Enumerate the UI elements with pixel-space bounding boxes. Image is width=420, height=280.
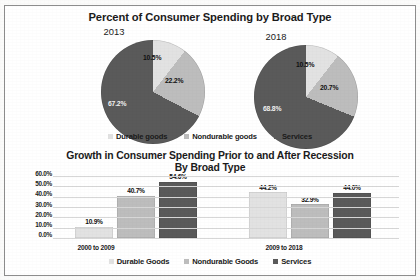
bar-value-services-g1: 44.0% [330, 184, 374, 191]
pie-legend-item-nondurable: Nondurable goods [184, 132, 257, 141]
gridline-60 [53, 176, 399, 177]
pie-legend-label-services: Services [282, 132, 312, 141]
pie-chart-panel: Percent of Consumer Spending by Broad Ty… [6, 7, 414, 149]
bar-legend-label-services: Services [281, 257, 311, 266]
legend-swatch-services-bar-icon [273, 259, 278, 264]
bar-legend-item-services: Services [273, 257, 311, 266]
pie-legend-label-durable: Durable goods [116, 132, 167, 141]
y-axis-tick-labels: 60.0%50.0%40.0%30.0%20.0%10.0%0.0% [14, 170, 52, 244]
y-tick-60-0: 60.0% [14, 170, 52, 177]
bar-plot-area: 10.9% 40.7% 54.6% 44.2% 32.9% [53, 176, 399, 238]
bar-legend-label-durable: Durable Goods [117, 257, 169, 266]
bar-chart-panel: Growth in Consumer Spending Prior to and… [6, 150, 414, 276]
scanned-page: Percent of Consumer Spending by Broad Ty… [0, 0, 420, 280]
bar-legend-item-nondurable: Nondurable Goods [184, 257, 258, 266]
pie-label-services-2013: 67.2% [108, 100, 126, 107]
y-tick-30-0: 30.0% [14, 201, 52, 208]
gridline-40 [53, 197, 399, 198]
legend-swatch-nondurable-goods-icon [184, 259, 189, 264]
pie-label-services-2018: 68.8% [263, 105, 281, 112]
pie-label-nondurable-2013: 22.2% [165, 77, 183, 84]
gridline-0 [53, 238, 399, 239]
pie-legend-label-nondurable: Nondurable goods [192, 132, 257, 141]
bar-value-nondurable-g0: 40.7% [114, 187, 158, 194]
bar-nondurable-g1 [291, 204, 329, 238]
pie-subtitle-2013: 2013 [84, 26, 144, 37]
pie-label-durable-2018: 10.5% [296, 61, 314, 68]
gridline-50 [53, 186, 399, 187]
x-axis-label-2009-2018: 2009 to 2018 [224, 244, 344, 251]
y-tick-0-0: 0.0% [14, 231, 52, 238]
pie-chart-2013: 10.5% 22.2% 67.2% [101, 40, 205, 144]
bar-title-line-2: By Broad Type [175, 162, 246, 173]
pie-panel-title: Percent of Consumer Spending by Broad Ty… [6, 11, 414, 23]
pie-label-durable-2013: 10.5% [143, 54, 161, 61]
bar-services-g1 [333, 193, 371, 239]
gridline-30 [53, 207, 399, 208]
bar-services-g0 [159, 182, 197, 238]
y-tick-20-0: 20.0% [14, 211, 52, 218]
y-tick-10-0: 10.0% [14, 221, 52, 228]
pie-legend: Durable goods Nondurable goods Services [6, 132, 414, 141]
gridline-20 [53, 217, 399, 218]
legend-swatch-services-icon [274, 134, 279, 139]
bar-value-durable-g0: 10.9% [72, 218, 116, 225]
legend-swatch-nondurable-icon [184, 134, 189, 139]
bar-panel-title: Growth in Consumer Spending Prior to and… [6, 150, 414, 173]
bar-title-line-1: Growth in Consumer Spending Prior to and… [66, 150, 353, 161]
pie-label-nondurable-2018: 20.7% [320, 84, 338, 91]
pie-subtitle-2018: 2018 [246, 31, 306, 42]
bar-durable-g1 [249, 192, 287, 238]
gridline-10 [53, 228, 399, 229]
pie-legend-item-services: Services [274, 132, 312, 141]
y-tick-50-0: 50.0% [14, 180, 52, 187]
x-axis-label-2000-2009: 2000 to 2009 [36, 244, 156, 251]
bar-legend-label-nondurable: Nondurable Goods [192, 257, 258, 266]
legend-swatch-durable-goods-icon [109, 259, 114, 264]
bar-legend: Durable Goods Nondurable Goods Services [6, 257, 414, 266]
legend-swatch-durable-icon [108, 134, 113, 139]
y-tick-40-0: 40.0% [14, 190, 52, 197]
pie-legend-item-durable: Durable goods [108, 132, 167, 141]
bar-legend-item-durable: Durable Goods [109, 257, 169, 266]
